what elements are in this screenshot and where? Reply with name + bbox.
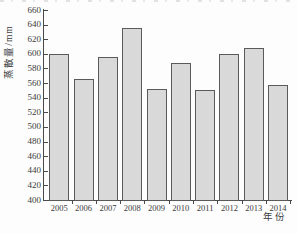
y-axis-line <box>43 9 44 201</box>
bar-2008 <box>122 28 142 201</box>
bar-2009 <box>147 89 167 201</box>
y-tick-label: 400 <box>17 196 41 205</box>
x-tick-label: 2012 <box>216 203 242 213</box>
x-tick-label: 2011 <box>192 203 218 213</box>
bar-2013 <box>244 48 264 201</box>
y-tick-label: 440 <box>17 166 41 175</box>
y-tick-label: 580 <box>17 64 41 73</box>
y-tick-label: 460 <box>17 152 41 161</box>
y-tick-mark <box>44 127 48 128</box>
x-tick-mark <box>290 201 291 204</box>
y-tick-mark <box>44 112 48 113</box>
bar-2007 <box>98 57 118 201</box>
y-tick-label: 540 <box>17 93 41 102</box>
y-tick-label: 620 <box>17 35 41 44</box>
y-axis-title: 蒸散量/mm <box>1 25 15 78</box>
y-tick-label: 520 <box>17 108 41 117</box>
bar-2014 <box>268 85 288 201</box>
y-tick-label: 640 <box>17 20 41 29</box>
x-tick-label: 2014 <box>265 203 291 213</box>
y-tick-mark <box>44 171 48 172</box>
x-tick-label: 2007 <box>95 203 121 213</box>
bar-2006 <box>74 79 94 201</box>
x-tick-label: 2009 <box>144 203 170 213</box>
x-tick-label: 2010 <box>168 203 194 213</box>
x-tick-label: 2008 <box>119 203 145 213</box>
y-tick-mark <box>44 200 48 201</box>
y-tick-mark <box>44 142 48 143</box>
y-tick-label: 600 <box>17 49 41 58</box>
bar-2005 <box>49 54 69 201</box>
y-tick-label: 560 <box>17 79 41 88</box>
y-tick-label: 500 <box>17 122 41 131</box>
bar-2011 <box>195 90 215 201</box>
bar-2010 <box>171 63 191 201</box>
y-tick-mark <box>44 39 48 40</box>
x-tick-label: 2006 <box>71 203 97 213</box>
x-tick-label: 2005 <box>46 203 72 213</box>
y-tick-mark <box>44 98 48 99</box>
evapotranspiration-bar-chart: 蒸散量/mm 年份 400420440460480500520540560580… <box>0 0 297 234</box>
y-tick-label: 480 <box>17 137 41 146</box>
x-tick-label: 2013 <box>241 203 267 213</box>
y-tick-label: 660 <box>17 6 41 15</box>
cropped-text-artifact <box>0 0 297 2</box>
y-tick-mark <box>44 10 48 11</box>
y-tick-mark <box>44 25 48 26</box>
bar-2012 <box>219 54 239 201</box>
y-tick-label: 420 <box>17 181 41 190</box>
y-tick-mark <box>44 83 48 84</box>
y-tick-mark <box>44 54 48 55</box>
y-tick-mark <box>44 68 48 69</box>
y-tick-mark <box>44 156 48 157</box>
y-tick-mark <box>44 185 48 186</box>
